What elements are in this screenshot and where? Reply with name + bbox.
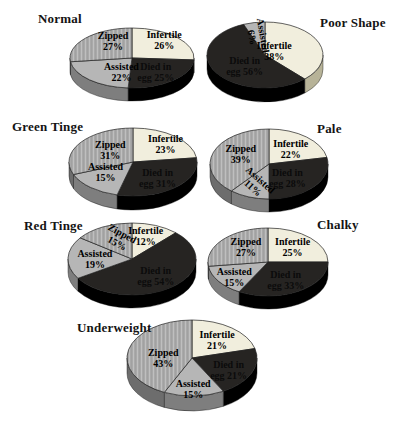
pie-title-poor-shape: Poor Shape (320, 15, 386, 31)
pie-red-tinge: Infertile12%Died inegg 54%Assisted19%Zip… (68, 221, 196, 308)
pie-green-tinge: Infertile23%Died inegg 31%Assisted15%Zip… (69, 128, 197, 210)
egg-condition-pie-figure: Infertile26%Died inegg 25%Assisted22%Zip… (0, 0, 398, 432)
slice-label-died: Died inegg 25% (137, 61, 174, 83)
pie-title-chalky: Chalky (317, 217, 359, 233)
slice-label-died: Died inegg 31% (139, 167, 176, 189)
pie-title-pale: Pale (317, 121, 342, 137)
slice-label-died: Died inegg 54% (137, 265, 174, 287)
slice-label-died: Died inegg 21% (210, 359, 247, 381)
pie-title-green-tinge: Green Tinge (12, 119, 83, 135)
pie-pale: Infertile22%Died inegg 28%Assisted11%Zip… (210, 129, 328, 212)
pie-title-red-tinge: Red Tinge (24, 218, 83, 234)
pies-canvas: Infertile26%Died inegg 25%Assisted22%Zip… (0, 0, 398, 432)
pie-title-underweight: Underweight (77, 320, 151, 336)
slice-label-died: Died inegg 56% (226, 55, 263, 77)
pie-poor-shape: Infertile38%Died inegg 56%Assisted6% (207, 17, 323, 102)
pie-normal: Infertile26%Died inegg 25%Assisted22%Zip… (70, 28, 194, 101)
pie-title-normal: Normal (38, 11, 82, 27)
slice-label-died: Died inegg 33% (267, 269, 304, 291)
pie-chalky: Infertile25%Died inegg 33%Assisted15%Zip… (208, 228, 328, 309)
